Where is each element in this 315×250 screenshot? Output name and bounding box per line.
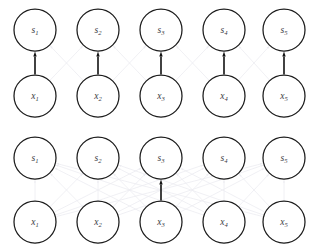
node-s3[interactable]: s3 [140,9,182,51]
node-s1[interactable]: s1 [14,9,56,51]
node-s4[interactable]: s4 [203,9,245,51]
faint-edge-x5-to-s5 [283,180,285,201]
node-s3[interactable]: s3 [140,137,182,179]
bottom-panel: s1s2s3s4s5x1x2x3x4x5 [0,128,315,250]
node-x3[interactable]: x3 [140,201,182,243]
active-edge-x1-to-s1 [33,52,36,75]
active-edge-x3-to-s3 [159,52,162,75]
top-panel: s1s2s3s4s5x1x2x3x4x5 [0,0,315,126]
node-s1[interactable]: s1 [14,137,56,179]
faint-edge-x1-to-s1 [34,180,36,201]
node-s2[interactable]: s2 [77,9,119,51]
node-x4[interactable]: x4 [203,75,245,117]
node-x4[interactable]: x4 [203,201,245,243]
node-x1[interactable]: x1 [14,201,56,243]
node-x2[interactable]: x2 [77,75,119,117]
node-s2[interactable]: s2 [77,137,119,179]
node-x5[interactable]: x5 [263,75,305,117]
active-edge-x5-to-s5 [282,52,285,75]
active-edge-x2-to-s2 [96,52,99,75]
node-s4[interactable]: s4 [203,137,245,179]
active-edge-x4-to-s4 [222,52,225,75]
node-x1[interactable]: x1 [14,75,56,117]
node-s5[interactable]: s5 [263,9,305,51]
node-x5[interactable]: x5 [263,201,305,243]
diagram-canvas: s1s2s3s4s5x1x2x3x4x5 s1s2s3s4s5x1x2x3x4x… [0,0,315,250]
node-x3[interactable]: x3 [140,75,182,117]
node-x2[interactable]: x2 [77,201,119,243]
node-s5[interactable]: s5 [263,137,305,179]
